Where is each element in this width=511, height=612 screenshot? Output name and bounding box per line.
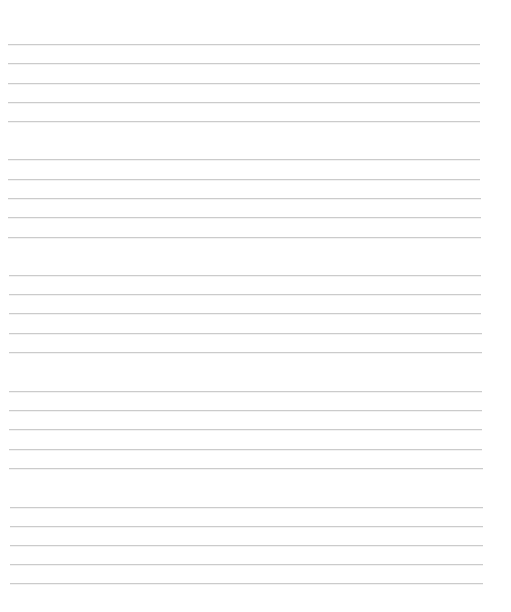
ruled-line (9, 429, 482, 430)
ruled-line (9, 294, 481, 295)
ruled-line (8, 217, 481, 218)
ruled-line (9, 468, 483, 469)
ruled-line (10, 507, 483, 508)
ruled-line (8, 44, 480, 45)
ruled-line (9, 275, 481, 276)
ruled-line (8, 63, 480, 64)
ruled-line (8, 159, 480, 160)
ruled-line (9, 391, 482, 392)
ruled-line (8, 237, 481, 238)
ruled-line (8, 198, 481, 199)
ruled-line (10, 583, 483, 584)
ruled-line (8, 121, 480, 122)
ruled-line (10, 564, 483, 565)
ruled-line (8, 179, 480, 180)
ruled-line (10, 545, 483, 546)
ruled-line (8, 102, 480, 103)
ruled-line (9, 449, 482, 450)
ruled-line (9, 410, 482, 411)
ruled-line (9, 333, 482, 334)
ruled-line (10, 526, 483, 527)
ruled-line (8, 83, 480, 84)
lined-page (0, 0, 511, 612)
ruled-line (9, 352, 482, 353)
ruled-line (9, 313, 481, 314)
